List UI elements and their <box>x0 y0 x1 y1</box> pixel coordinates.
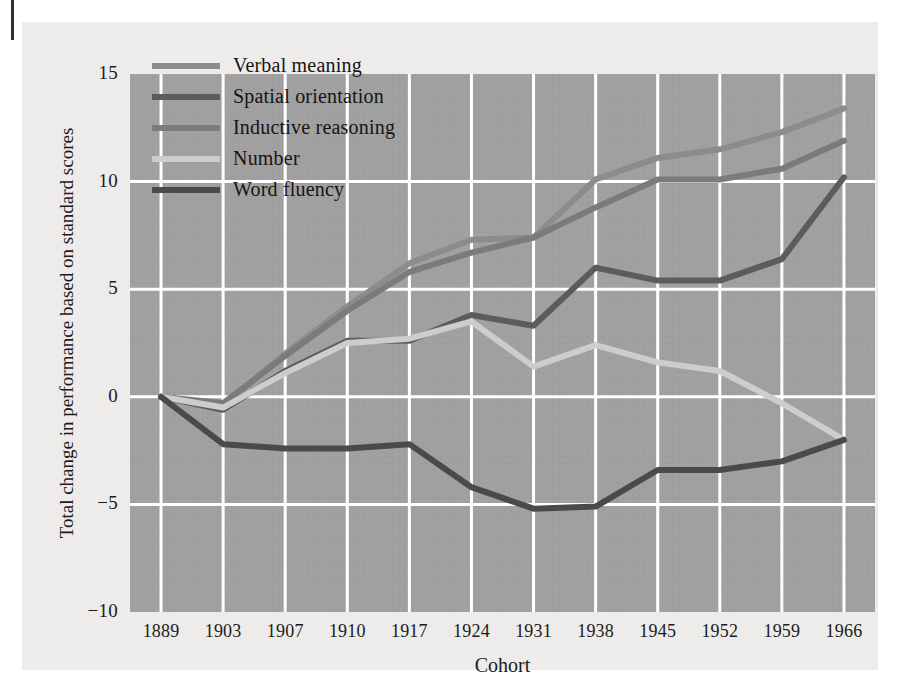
x-tick-label: 1966 <box>809 621 879 642</box>
x-tick-label: 1952 <box>685 621 755 642</box>
x-tick-label: 1931 <box>499 621 569 642</box>
y-axis-label: Total change in performance based on sta… <box>56 73 78 593</box>
legend-color-swatch <box>152 63 220 69</box>
x-tick-label: 1917 <box>374 621 444 642</box>
x-tick-label: 1945 <box>623 621 693 642</box>
legend-item: Spatial orientation <box>152 81 395 112</box>
y-tick-label: −10 <box>48 600 118 622</box>
legend-item: Number <box>152 143 395 174</box>
legend-color-swatch <box>152 187 220 193</box>
series-line <box>161 397 844 509</box>
legend-item: Inductive reasoning <box>152 112 395 143</box>
x-tick-label: 1907 <box>250 621 320 642</box>
chart-figure: Verbal meaningSpatial orientationInducti… <box>22 22 878 670</box>
x-tick-label: 1903 <box>188 621 258 642</box>
legend-color-swatch <box>152 156 220 162</box>
series-line <box>161 321 844 439</box>
legend-label: Inductive reasoning <box>233 116 395 139</box>
x-tick-label: 1959 <box>747 621 817 642</box>
x-tick-label: 1910 <box>312 621 382 642</box>
legend-item: Verbal meaning <box>152 50 395 81</box>
legend-color-swatch <box>152 94 220 100</box>
legend-label: Verbal meaning <box>233 54 362 77</box>
legend-color-swatch <box>152 125 220 131</box>
x-axis-label: Cohort <box>130 654 875 677</box>
x-tick-label: 1924 <box>436 621 506 642</box>
x-tick-label: 1889 <box>126 621 196 642</box>
x-tick-label: 1938 <box>561 621 631 642</box>
chart-legend: Verbal meaningSpatial orientationInducti… <box>152 50 395 205</box>
page-edge-mark <box>11 0 14 40</box>
legend-label: Number <box>233 147 300 170</box>
legend-label: Spatial orientation <box>233 85 384 108</box>
legend-item: Word fluency <box>152 174 395 205</box>
legend-label: Word fluency <box>233 178 344 201</box>
